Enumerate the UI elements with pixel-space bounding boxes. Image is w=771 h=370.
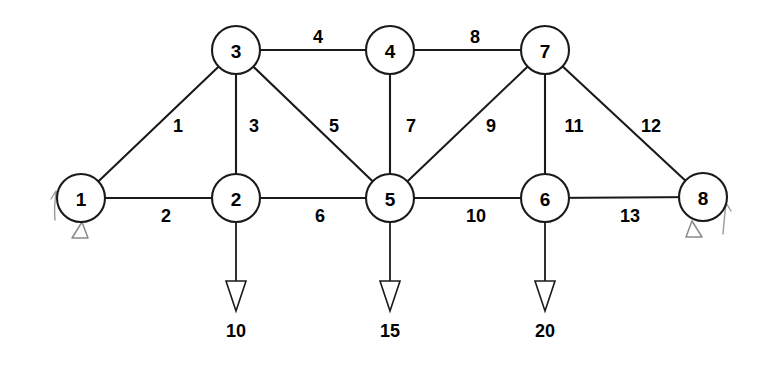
truss-svg: 1 2 3 4 5 6 7 8 1 2 3 4 5 6 7 8 9 10 11 …: [0, 0, 771, 370]
node-label-2: 2: [231, 189, 242, 210]
node-label-6: 6: [540, 189, 551, 210]
load-labels-group: 10 15 20: [226, 321, 555, 341]
member-label-10: 10: [466, 206, 486, 226]
node-label-3: 3: [231, 41, 242, 62]
member-label-7: 7: [406, 116, 416, 136]
load-value-node-6: 20: [535, 321, 555, 341]
member-label-6: 6: [315, 206, 325, 226]
load-arrow-node-6: [535, 222, 555, 311]
member-label-4: 4: [313, 27, 323, 47]
load-arrows-group: [226, 222, 555, 311]
truss-diagram-canvas: 1 2 3 4 5 6 7 8 1 2 3 4 5 6 7 8 9 10 11 …: [0, 0, 771, 370]
load-arrowhead-node-6: [535, 281, 555, 311]
load-value-node-2: 10: [226, 321, 246, 341]
member-label-5: 5: [329, 116, 339, 136]
member-label-2: 2: [161, 206, 171, 226]
member-line-1: [81, 50, 236, 198]
node-label-8: 8: [698, 188, 709, 209]
support-triangle-node-8: [686, 221, 702, 237]
member-label-12: 12: [641, 116, 661, 136]
member-label-13: 13: [620, 206, 640, 226]
node-label-1: 1: [76, 189, 87, 210]
load-arrow-node-5: [380, 222, 400, 311]
member-label-1: 1: [173, 116, 183, 136]
load-value-node-5: 15: [380, 321, 400, 341]
member-label-8: 8: [470, 27, 480, 47]
member-line-5: [236, 50, 390, 198]
support-triangle-node-1: [72, 222, 88, 238]
member-label-3: 3: [249, 116, 259, 136]
node-label-4: 4: [385, 41, 396, 62]
node-label-7: 7: [540, 41, 551, 62]
load-arrowhead-node-5: [380, 281, 400, 311]
member-label-11: 11: [564, 116, 583, 136]
member-label-9: 9: [486, 116, 496, 136]
load-arrow-node-2: [226, 222, 246, 311]
load-arrowhead-node-2: [226, 281, 246, 311]
node-label-5: 5: [385, 189, 396, 210]
